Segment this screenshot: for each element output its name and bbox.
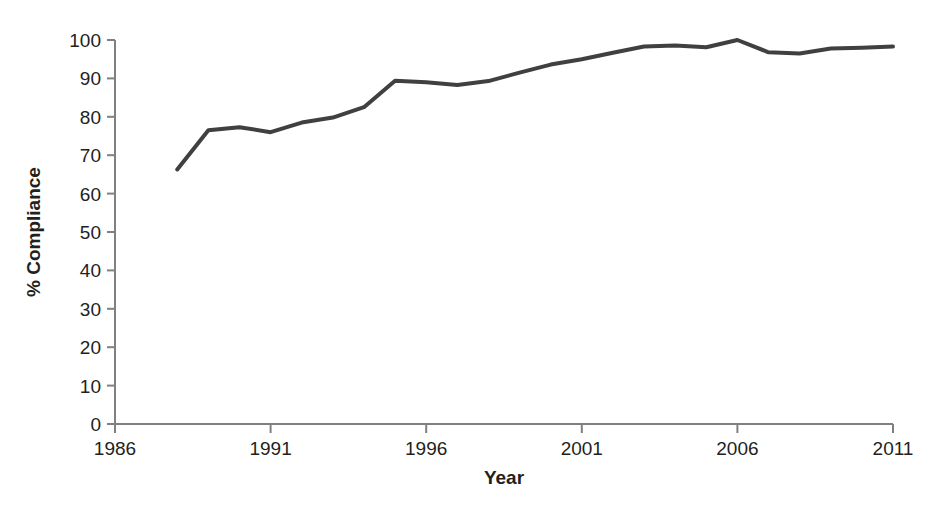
chart-canvas: 0102030405060708090100 19861991199620012… [0, 0, 942, 512]
x-tick-labels: 198619911996200120062011 [94, 438, 914, 459]
y-tick-label: 10 [80, 376, 101, 397]
y-axis-group: 0102030405060708090100 [69, 30, 115, 435]
y-tick-label: 40 [80, 260, 101, 281]
x-axis-group: 198619911996200120062011 [94, 424, 914, 459]
x-tick-label: 2001 [561, 438, 603, 459]
compliance-line-chart: 0102030405060708090100 19861991199620012… [0, 0, 942, 512]
y-tick-marks [107, 40, 115, 424]
plot-area [177, 40, 893, 169]
x-tick-label: 2011 [873, 438, 914, 459]
x-tick-label: 1996 [405, 438, 447, 459]
x-tick-label: 1991 [249, 438, 291, 459]
x-axis-title: Year [484, 467, 525, 488]
x-tick-label: 1986 [94, 438, 136, 459]
y-tick-labels: 0102030405060708090100 [69, 30, 101, 435]
x-tick-marks [115, 424, 893, 433]
y-tick-label: 100 [69, 30, 101, 51]
y-axis-title: % Compliance [23, 167, 44, 297]
y-tick-label: 60 [80, 184, 101, 205]
y-tick-label: 80 [80, 107, 101, 128]
y-tick-label: 20 [80, 337, 101, 358]
y-tick-label: 30 [80, 299, 101, 320]
y-tick-label: 50 [80, 222, 101, 243]
y-tick-label: 70 [80, 145, 101, 166]
y-tick-label: 90 [80, 68, 101, 89]
data-series-line [177, 40, 893, 169]
y-tick-label: 0 [90, 414, 101, 435]
x-tick-label: 2006 [716, 438, 758, 459]
